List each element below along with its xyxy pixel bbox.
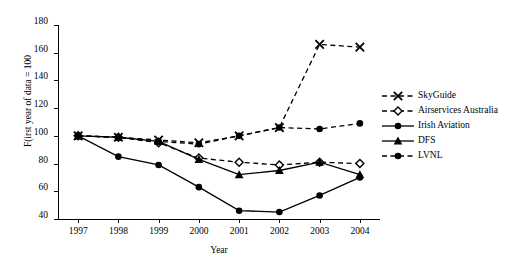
x-tick-label: 1997 <box>60 226 96 236</box>
legend-item-lvnl: LVNL <box>381 148 513 163</box>
y-tick-label: 60 <box>39 183 49 193</box>
y-tick-mark <box>54 191 58 192</box>
y-tick-mark <box>54 136 58 137</box>
plot-area <box>58 25 380 219</box>
x-tick-label: 1999 <box>141 226 177 236</box>
y-tick-mark <box>54 25 58 26</box>
x-tick-mark <box>118 219 119 223</box>
x-tick-mark <box>360 219 361 223</box>
y-tick-label: 160 <box>34 45 48 55</box>
y-tick-label: 40 <box>39 211 49 221</box>
legend-label: SkyGuide <box>415 90 456 101</box>
data-point-marker-circle-filled <box>395 122 402 129</box>
x-tick-label: 1998 <box>100 226 136 236</box>
y-tick-mark <box>54 53 58 54</box>
y-tick-label: 120 <box>34 100 48 110</box>
x-tick-mark <box>320 219 321 223</box>
legend-label: Irish Aviation <box>415 120 470 131</box>
x-tick-label: 2001 <box>221 226 257 236</box>
y-tick-label: 100 <box>34 128 48 138</box>
chart-figure: 406080100120140160180 199719981999200020… <box>0 0 517 267</box>
x-axis-label: Year <box>58 245 380 255</box>
x-tick-label: 2003 <box>302 226 338 236</box>
legend-label: Airservices Australia <box>415 105 498 116</box>
legend-swatch-diamond-open <box>381 104 415 118</box>
y-tick-mark <box>54 80 58 81</box>
y-tick-label: 80 <box>39 156 49 166</box>
legend-swatch-circle-filled <box>381 149 415 163</box>
y-tick-label: 180 <box>34 17 48 27</box>
x-tick-label: 2000 <box>181 226 217 236</box>
legend-swatch-circle-filled <box>381 119 415 133</box>
legend-swatch-triangle-filled <box>381 134 415 148</box>
y-tick-mark <box>54 164 58 165</box>
y-tick-label: 140 <box>34 72 48 82</box>
x-tick-mark <box>159 219 160 223</box>
y-tick-mark <box>54 219 58 220</box>
y-axis-line <box>58 25 59 219</box>
x-tick-label: 2004 <box>342 226 378 236</box>
x-tick-mark <box>78 219 79 223</box>
chart-legend: SkyGuideAirservices AustraliaIrish Aviat… <box>381 88 513 163</box>
y-axis-label: F(irst year of data = 100 <box>23 11 33 191</box>
x-tick-mark <box>279 219 280 223</box>
data-point-marker-diamond-open <box>394 107 402 115</box>
x-tick-mark <box>199 219 200 223</box>
legend-item-irish-aviation: Irish Aviation <box>381 118 513 133</box>
x-tick-mark <box>239 219 240 223</box>
legend-item-dfs: DFS <box>381 133 513 148</box>
legend-swatch-cross-x <box>381 89 415 103</box>
x-tick-label: 2002 <box>261 226 297 236</box>
legend-label: DFS <box>415 135 435 146</box>
data-point-marker-circle-filled <box>395 152 402 159</box>
legend-item-airservices-australia: Airservices Australia <box>381 103 513 118</box>
y-tick-mark <box>54 108 58 109</box>
legend-item-skyguide: SkyGuide <box>381 88 513 103</box>
legend-label: LVNL <box>415 150 442 161</box>
x-axis-line <box>58 219 380 220</box>
